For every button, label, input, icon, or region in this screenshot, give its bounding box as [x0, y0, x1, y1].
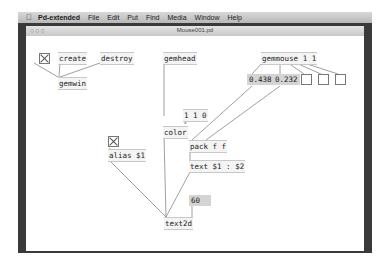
- number-size[interactable]: 60: [189, 195, 211, 206]
- toggle-create[interactable]: [39, 53, 50, 64]
- window-titlebar[interactable]: ○○○ Mouse001.pd: [26, 26, 364, 36]
- msg-text[interactable]: text $1 : $2: [189, 160, 245, 173]
- msg-1-1-0[interactable]: 1 1 0: [183, 109, 208, 122]
- menu-bar:  Pd-extended File Edit Put Find Media W…: [18, 12, 372, 23]
- apple-icon[interactable]: : [26, 13, 32, 22]
- window-title: Mouse001.pd: [26, 27, 364, 33]
- obj-text2d[interactable]: text2d: [164, 217, 193, 230]
- obj-alias[interactable]: alias $1: [108, 149, 146, 162]
- obj-gemhead[interactable]: gemhead: [163, 52, 197, 65]
- number-x[interactable]: 0.438: [247, 74, 274, 85]
- obj-pack[interactable]: pack f f: [189, 140, 227, 153]
- menu-find[interactable]: Find: [146, 14, 160, 21]
- menu-window[interactable]: Window: [195, 14, 220, 21]
- menu-media[interactable]: Media: [168, 14, 187, 21]
- msg-create[interactable]: create: [58, 52, 87, 65]
- toggle-right-button[interactable]: [335, 74, 346, 85]
- menu-edit[interactable]: Edit: [107, 14, 119, 21]
- obj-gemwin[interactable]: gemwin: [58, 77, 87, 90]
- menu-help[interactable]: Help: [227, 14, 241, 21]
- menu-file[interactable]: File: [88, 14, 99, 21]
- msg-destroy[interactable]: destroy: [100, 52, 134, 65]
- toggle-alias[interactable]: [108, 136, 119, 147]
- patch-window: ○○○ Mouse001.pd: [26, 26, 364, 251]
- obj-gemmouse[interactable]: gemmouse 1 1: [261, 52, 317, 65]
- number-y[interactable]: 0.232: [273, 74, 300, 85]
- obj-color[interactable]: color: [163, 126, 188, 139]
- patch-canvas[interactable]: create destroy gemwin gemhead gemmouse 1…: [26, 36, 364, 251]
- toggle-left-button[interactable]: [301, 74, 312, 85]
- menu-app-name[interactable]: Pd-extended: [38, 14, 80, 21]
- toggle-middle-button[interactable]: [318, 74, 329, 85]
- menu-put[interactable]: Put: [127, 14, 138, 21]
